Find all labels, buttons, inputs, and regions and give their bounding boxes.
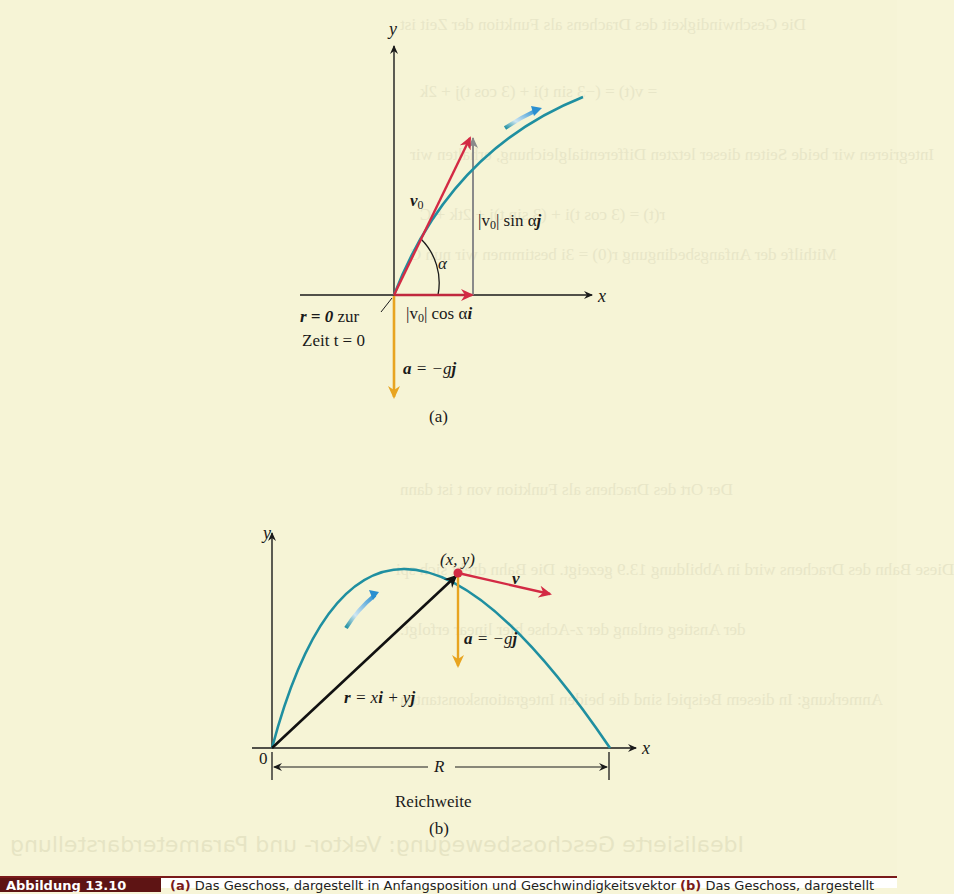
origin-pointer [381, 298, 392, 312]
x-axis-label-a: x [598, 287, 606, 305]
sin-component-label: |v0| sin αj [478, 212, 541, 231]
range-label: R [434, 758, 444, 775]
trajectory-arrow-head [531, 106, 542, 116]
position-vector [272, 576, 456, 748]
range-caption: Reichweite [395, 793, 471, 810]
figure-caption: (a) Das Geschoss, dargestellt in Anfangs… [170, 878, 874, 894]
figure-number-tag: Abbildung 13.10 [0, 878, 161, 892]
trajectory-b [272, 569, 610, 748]
point-label: (x, y) [440, 551, 475, 568]
v0-vector [394, 138, 470, 295]
panel-b-label: (b) [429, 820, 449, 837]
alpha-label: α [438, 255, 447, 272]
alpha-arc [421, 239, 439, 295]
origin-time-label: Zeit t = 0 [302, 332, 365, 349]
v0-label: v0 [410, 192, 424, 211]
accel-label-a: a = −gj [403, 360, 456, 377]
velocity-label-b: v [512, 570, 520, 587]
trajectory-direction-arrow [505, 110, 537, 128]
projectile-point [454, 569, 463, 578]
origin-label-b: 0 [259, 750, 268, 767]
y-axis-label-b: y [263, 524, 271, 542]
accel-label-b: a = −gj [464, 630, 517, 647]
position-label: r = xi + yj [344, 689, 415, 706]
y-axis-label-a: y [389, 20, 397, 38]
panel-b [252, 533, 636, 780]
trajectory-direction-arrow-b [346, 595, 375, 628]
origin-label: r = 0 zur [300, 308, 359, 325]
panel-a-label: (a) [429, 408, 448, 425]
x-axis-label-b: x [642, 739, 650, 757]
velocity-vector-b [458, 573, 550, 594]
cos-component-label: |v0| cos αi [406, 305, 472, 324]
